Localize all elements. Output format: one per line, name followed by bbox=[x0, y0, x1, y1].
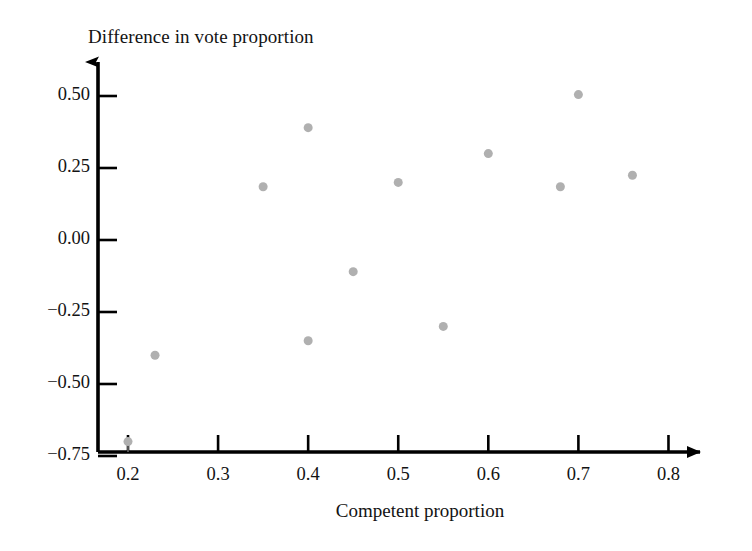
data-point bbox=[628, 171, 637, 180]
data-point bbox=[439, 322, 448, 331]
data-point bbox=[349, 267, 358, 276]
data-point bbox=[124, 437, 133, 446]
x-tick-label: 0.5 bbox=[368, 464, 428, 485]
x-tick-label: 0.7 bbox=[548, 464, 608, 485]
y-tick-label: −0.75 bbox=[28, 444, 90, 465]
x-tick-label: 0.8 bbox=[638, 464, 698, 485]
data-point bbox=[259, 182, 268, 191]
x-tick-label: 0.2 bbox=[98, 464, 158, 485]
data-point bbox=[574, 90, 583, 99]
x-axis-label-text: Competent proportion bbox=[336, 500, 504, 521]
scatter-plot-figure: Difference in vote proportion 0.500.250.… bbox=[0, 0, 752, 551]
data-point bbox=[304, 336, 313, 345]
x-tick-marks bbox=[128, 435, 668, 452]
axes bbox=[98, 62, 700, 452]
y-tick-label: −0.25 bbox=[28, 300, 90, 321]
data-point bbox=[304, 123, 313, 132]
y-tick-label: 0.00 bbox=[28, 228, 90, 249]
x-tick-label: 0.3 bbox=[188, 464, 248, 485]
data-point bbox=[394, 178, 403, 187]
x-axis-label: Competent proportion bbox=[0, 500, 752, 522]
x-tick-label: 0.6 bbox=[458, 464, 518, 485]
y-tick-marks bbox=[98, 96, 117, 456]
x-tick-label: 0.4 bbox=[278, 464, 338, 485]
data-point bbox=[484, 149, 493, 158]
y-tick-label: 0.25 bbox=[28, 156, 90, 177]
data-point bbox=[556, 182, 565, 191]
data-point bbox=[151, 351, 160, 360]
data-point-group bbox=[124, 90, 637, 446]
y-tick-label: −0.50 bbox=[28, 372, 90, 393]
y-tick-label: 0.50 bbox=[28, 84, 90, 105]
